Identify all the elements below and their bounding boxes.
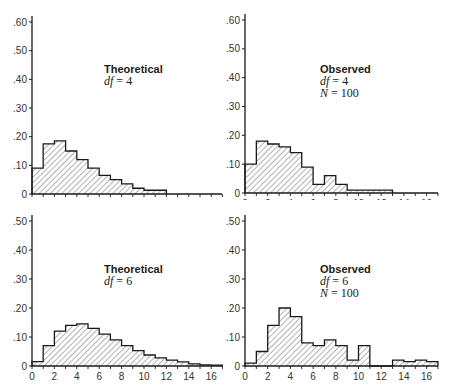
x-tick-label: 8 <box>333 371 339 382</box>
annotation: Observed df = 6 N = 100 <box>320 263 371 299</box>
chart-theoretical-df6: 0.10.20.30.40.500246810121416 Theoretica… <box>0 200 225 391</box>
x-tick-label: 16 <box>206 371 218 382</box>
df-value: 6 <box>126 274 132 288</box>
y-tick-label: .40 <box>13 245 27 256</box>
x-tick-label: 14 <box>398 371 410 382</box>
x-tick-label: 10 <box>138 371 150 382</box>
y-tick-label: .50 <box>13 216 27 227</box>
y-tick-label: .50 <box>226 216 240 227</box>
x-tick-label: 0 <box>242 371 248 382</box>
chart-observed-df4: 0.10.20.30.40.50.600246810121416 Observe… <box>225 0 451 200</box>
y-tick-label: .40 <box>226 245 240 256</box>
y-tick-label: .30 <box>226 274 240 285</box>
y-tick-label: .10 <box>13 332 27 343</box>
df-value: 4 <box>126 74 132 88</box>
equals-sign: = <box>328 86 341 100</box>
x-tick-label: 8 <box>119 371 125 382</box>
histogram-svg: 0.10.20.30.40.500246810121416 <box>0 200 225 391</box>
y-tick-label: .30 <box>13 103 27 114</box>
y-tick-label: .50 <box>226 43 240 54</box>
n-label: N <box>320 286 328 300</box>
y-tick-label: .10 <box>226 332 240 343</box>
x-tick-label: 16 <box>421 371 433 382</box>
x-tick-label: 12 <box>161 371 173 382</box>
histogram-svg: 0.10.20.30.40.50.600246810121416 <box>0 0 225 200</box>
histogram-bars <box>245 141 393 193</box>
y-tick-label: .40 <box>13 74 27 85</box>
y-tick-label: .20 <box>226 130 240 141</box>
y-tick-label: 0 <box>21 189 27 200</box>
n-label: N <box>320 86 328 100</box>
df-label: df <box>104 274 113 288</box>
y-tick-label: .10 <box>226 159 240 170</box>
histogram-svg: 0.10.20.30.40.50.600246810121416 <box>225 0 451 200</box>
y-tick-label: .30 <box>13 274 27 285</box>
x-tick-label: 6 <box>96 371 102 382</box>
x-tick-label: 2 <box>265 371 271 382</box>
x-tick-label: 2 <box>52 371 58 382</box>
histogram-bars <box>32 324 222 366</box>
y-tick-label: .20 <box>13 303 27 314</box>
x-tick-label: 10 <box>353 371 365 382</box>
x-tick-label: 4 <box>288 371 294 382</box>
y-tick-label: 0 <box>234 188 240 199</box>
annotation: Observed df = 4 N = 100 <box>320 63 371 99</box>
y-tick-label: .10 <box>13 160 27 171</box>
y-tick-label: .60 <box>13 17 27 28</box>
chart-observed-df6: 0.10.20.30.40.500246810121416 Observed d… <box>225 200 451 391</box>
y-tick-label: 0 <box>21 361 27 372</box>
x-tick-label: 4 <box>74 371 80 382</box>
histogram-bars <box>32 141 166 194</box>
histogram-bars <box>245 308 438 366</box>
annotation: Theoretical df = 4 <box>104 63 163 87</box>
chart-theoretical-df4: 0.10.20.30.40.50.600246810121416 Theoret… <box>0 0 225 200</box>
n-value: 100 <box>341 86 359 100</box>
x-tick-label: 14 <box>183 371 195 382</box>
x-tick-label: 12 <box>376 371 388 382</box>
y-tick-label: .60 <box>226 15 240 26</box>
x-tick-label: 6 <box>310 371 316 382</box>
equals-sign: = <box>328 286 341 300</box>
n-value: 100 <box>341 286 359 300</box>
df-label: df <box>104 74 113 88</box>
equals-sign: = <box>113 274 126 288</box>
y-tick-label: .40 <box>226 72 240 83</box>
equals-sign: = <box>113 74 126 88</box>
y-tick-label: 0 <box>234 361 240 372</box>
y-tick-label: .30 <box>226 101 240 112</box>
y-tick-label: .50 <box>13 45 27 56</box>
y-tick-label: .20 <box>226 303 240 314</box>
y-tick-label: .20 <box>13 131 27 142</box>
annotation: Theoretical df = 6 <box>104 263 163 287</box>
x-tick-label: 0 <box>29 371 35 382</box>
